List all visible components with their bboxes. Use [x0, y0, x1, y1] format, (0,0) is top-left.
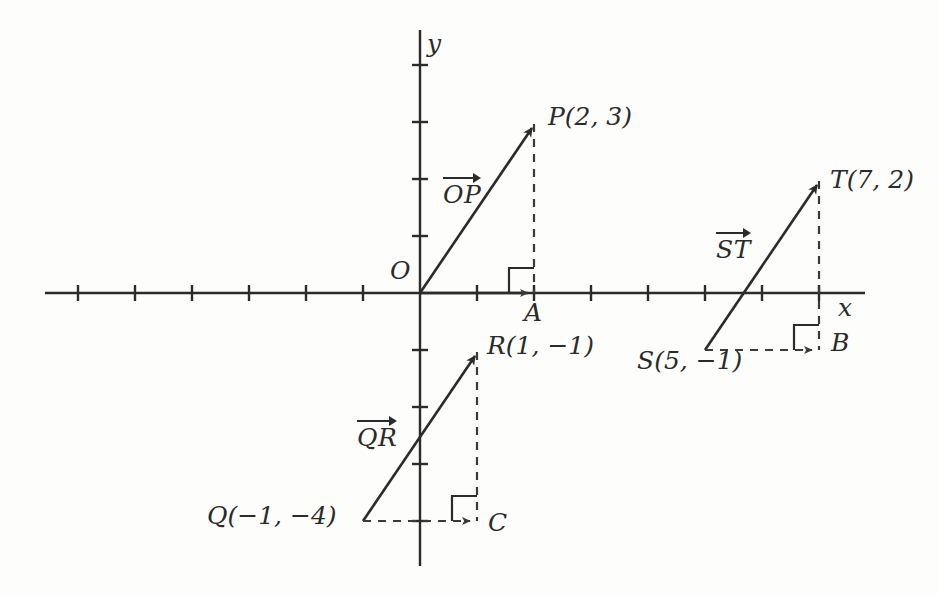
vector-qr-text: QR [357, 425, 397, 450]
x-axis-label: x [838, 295, 852, 320]
figure-canvas: y x O P(2, 3) A R(1, −1) Q(−1, −4) C T(7… [0, 0, 938, 594]
vector-st-overbar-arrow-icon [716, 227, 751, 236]
point-label-c: C [488, 510, 507, 535]
op-right-angle-mark [509, 268, 534, 293]
vector-qr-overbar-arrow-icon [357, 415, 397, 424]
vector-op-overbar-arrow-icon [443, 172, 481, 181]
vector-label-qr: QR [357, 415, 397, 450]
point-label-t: T(7, 2) [830, 167, 914, 192]
st-right-angle-mark [794, 325, 819, 350]
point-label-r: R(1, −1) [487, 333, 594, 358]
origin-label: O [390, 258, 411, 283]
point-label-b: B [831, 330, 849, 355]
qr-right-angle-mark [452, 496, 477, 521]
vector-label-op: OP [443, 172, 481, 207]
point-label-s: S(5, −1) [637, 348, 742, 373]
point-label-p: P(2, 3) [548, 104, 632, 129]
y-axis [412, 30, 428, 566]
vector-label-st: ST [716, 227, 751, 262]
vector-diagram-svg [0, 0, 938, 594]
point-label-q: Q(−1, −4) [207, 503, 337, 528]
y-axis-label: y [427, 31, 441, 56]
vector-st-group [705, 181, 819, 350]
vector-st-text: ST [716, 237, 751, 262]
vector-op-text: OP [443, 182, 481, 207]
point-label-a: A [524, 300, 542, 325]
